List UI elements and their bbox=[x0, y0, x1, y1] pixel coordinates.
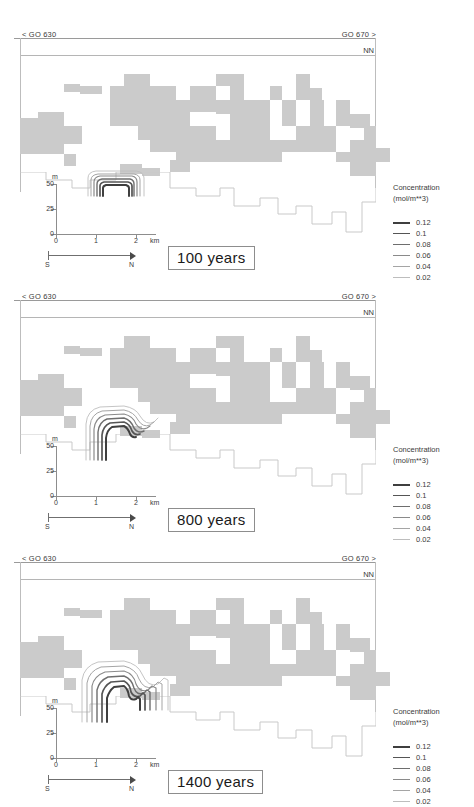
legend-value: 0.04 bbox=[416, 524, 431, 533]
legend-row: 0.02 bbox=[393, 534, 473, 545]
strata-block bbox=[230, 100, 244, 140]
legend-line-swatch bbox=[393, 779, 410, 780]
strata-block bbox=[364, 126, 376, 140]
strata-block bbox=[190, 86, 216, 112]
strata-block bbox=[270, 86, 282, 100]
y-axis-unit: m bbox=[52, 435, 58, 442]
legend-value: 0.08 bbox=[416, 502, 431, 511]
legend-line-swatch bbox=[393, 277, 410, 278]
legend-line-swatch bbox=[393, 539, 410, 540]
legend-title-line2: (mol/m**3) bbox=[393, 717, 473, 728]
strata-block bbox=[150, 348, 176, 362]
strata-block bbox=[38, 636, 64, 650]
strata-block bbox=[124, 362, 176, 388]
datum-label: NN bbox=[363, 308, 374, 317]
depth-distance-axes: m 50 25 0 0 1 2 km bbox=[38, 706, 158, 768]
legend-line-swatch bbox=[393, 801, 410, 802]
strata-block bbox=[230, 624, 244, 664]
strata-block bbox=[282, 664, 336, 676]
strata-block bbox=[64, 678, 76, 690]
strata-block bbox=[296, 650, 336, 664]
legend-row: 0.02 bbox=[393, 272, 473, 283]
y-tick-50: 50 bbox=[26, 704, 54, 711]
legend-row: 0.02 bbox=[393, 796, 473, 807]
legend-row: 0.1 bbox=[393, 752, 473, 763]
compass-south-label: S bbox=[45, 785, 50, 792]
datum-label: NN bbox=[363, 46, 374, 55]
depth-distance-axes: m 50 25 0 0 1 2 km bbox=[38, 182, 158, 244]
compass-north-label: N bbox=[129, 785, 134, 792]
x-tick-1: 1 bbox=[94, 237, 98, 244]
strata-block bbox=[190, 650, 216, 664]
strata-block bbox=[236, 414, 282, 424]
legend: Concentration (mol/m**3) 0.120.10.080.06… bbox=[393, 444, 473, 545]
strata-block bbox=[236, 676, 282, 686]
strata-block bbox=[64, 416, 76, 428]
y-tick-25: 25 bbox=[26, 729, 54, 736]
strata-block bbox=[190, 348, 216, 374]
legend-value: 0.02 bbox=[416, 535, 431, 544]
legend-line-swatch bbox=[393, 233, 410, 234]
strata-block bbox=[20, 668, 64, 678]
y-axis-unit: m bbox=[52, 173, 58, 180]
panel-top-rule bbox=[14, 300, 376, 301]
strata-block bbox=[38, 374, 64, 388]
legend-row: 0.04 bbox=[393, 261, 473, 272]
legend-line-swatch bbox=[393, 255, 410, 256]
strata-block bbox=[310, 624, 324, 650]
compass-north-label: N bbox=[129, 261, 134, 268]
x-tick-2: 2 bbox=[134, 499, 138, 506]
legend-row: 0.1 bbox=[393, 490, 473, 501]
legend-row: 0.12 bbox=[393, 479, 473, 490]
strata-block bbox=[230, 336, 244, 362]
x-tick-0: 0 bbox=[54, 761, 58, 768]
y-tick-25: 25 bbox=[26, 205, 54, 212]
strata-block bbox=[150, 86, 176, 100]
x-tick-0: 0 bbox=[54, 499, 58, 506]
legend-line-swatch bbox=[393, 484, 410, 486]
strata-block bbox=[80, 86, 102, 94]
strata-block bbox=[110, 362, 124, 388]
legend-line-swatch bbox=[393, 495, 410, 496]
legend-line-swatch bbox=[393, 790, 410, 791]
y-axis-line bbox=[56, 184, 57, 234]
panel-title: 1400 years bbox=[168, 770, 263, 794]
strata-block bbox=[296, 74, 310, 88]
compass-north-label: N bbox=[129, 523, 134, 530]
legend-value: 0.06 bbox=[416, 775, 431, 784]
strata-block bbox=[230, 598, 244, 624]
strata-block bbox=[244, 624, 270, 650]
x-axis-unit: km bbox=[150, 499, 159, 506]
legend-row: 0.1 bbox=[393, 228, 473, 239]
x-tick-2: 2 bbox=[134, 761, 138, 768]
strata-block bbox=[150, 140, 270, 152]
x-axis-unit: km bbox=[150, 237, 159, 244]
legend-line-swatch bbox=[393, 266, 410, 267]
strata-block bbox=[64, 126, 82, 144]
x-tick-0: 0 bbox=[54, 237, 58, 244]
strata-block bbox=[244, 126, 270, 140]
direction-arrow: S N bbox=[34, 774, 144, 800]
legend-value: 0.02 bbox=[416, 273, 431, 282]
strata-block bbox=[230, 362, 244, 402]
strata-block bbox=[190, 126, 216, 140]
strata-block bbox=[244, 388, 270, 402]
strata-block bbox=[20, 144, 64, 154]
legend-entries: 0.120.10.080.060.040.02 bbox=[393, 217, 473, 283]
strata-block bbox=[236, 152, 282, 162]
legend-value: 0.1 bbox=[416, 753, 426, 762]
strata-block bbox=[244, 100, 270, 126]
legend: Concentration (mol/m**3) 0.120.10.080.06… bbox=[393, 706, 473, 807]
strata-block bbox=[138, 336, 150, 348]
header-label-left: < GO 630 bbox=[22, 30, 56, 39]
strata-block bbox=[350, 140, 376, 152]
y-tick-50: 50 bbox=[26, 442, 54, 449]
strata-block bbox=[216, 598, 230, 610]
strata-block bbox=[216, 336, 230, 348]
panel-800-years: < GO 630 GO 670 > NN m 50 25 0 0 1 2 km … bbox=[0, 284, 474, 542]
strata-block bbox=[296, 388, 336, 402]
strata-block bbox=[230, 74, 244, 100]
legend-title-line1: Concentration bbox=[393, 706, 473, 717]
strata-block bbox=[282, 402, 336, 414]
strata-block bbox=[138, 598, 150, 610]
